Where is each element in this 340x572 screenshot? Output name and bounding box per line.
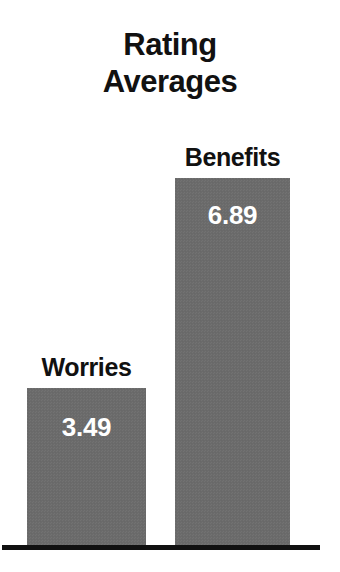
- x-axis-baseline: [2, 545, 320, 550]
- bar-category-label-benefits: Benefits: [158, 143, 307, 171]
- bar-benefits[interactable]: [175, 178, 290, 546]
- chart-container: Rating Averages Worries 3.49 Benefits 6.…: [0, 0, 340, 572]
- bar-category-label-worries: Worries: [12, 353, 161, 381]
- plot-area: Worries 3.49 Benefits 6.89: [0, 0, 340, 572]
- bar-value-label-worries: 3.49: [27, 412, 146, 442]
- bar-value-label-benefits: 6.89: [175, 200, 290, 230]
